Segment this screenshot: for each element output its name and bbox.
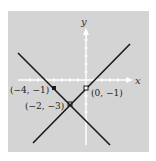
point-neg4-neg1 (52, 86, 56, 90)
graph: y x (−4, −1) (−2, −3) (0, −1) (0, 0, 156, 161)
point-label-0-neg1: (0, −1) (91, 88, 123, 98)
x-axis-label: x (135, 75, 141, 86)
point-0-neg1 (84, 86, 88, 90)
y-axis-label: y (80, 16, 87, 27)
point-label-neg4-neg1: (−4, −1) (10, 85, 49, 95)
point-label-neg2-neg3: (−2, −3) (25, 101, 64, 111)
